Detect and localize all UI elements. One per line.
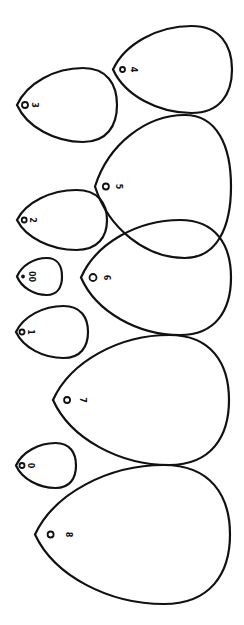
teardrop-shape-4: 4: [113, 26, 232, 113]
teardrop-shape-2: 2: [17, 190, 107, 250]
hanging-hole-icon: [22, 102, 28, 108]
teardrop-templates-diagram: 43520061708: [0, 0, 244, 625]
size-label: 0: [26, 463, 35, 469]
hanging-hole-icon: [90, 274, 97, 281]
size-label: 8: [64, 532, 73, 538]
teardrop-shape-5: 5: [95, 115, 231, 258]
size-label: 4: [129, 67, 138, 73]
hanging-hole-icon: [48, 532, 54, 538]
teardrop-shape-00: 00: [17, 258, 62, 295]
hanging-hole-icon: [20, 463, 25, 468]
size-label: 7: [78, 397, 87, 403]
hanging-hole-icon: [22, 218, 27, 223]
teardrop-shape-0: 0: [16, 443, 76, 488]
hanging-hole-icon: [20, 330, 25, 335]
hanging-hole-icon: [22, 276, 24, 278]
teardrop-shape-1: 1: [16, 306, 88, 358]
size-label: 2: [28, 217, 37, 223]
teardrop-shape-3: 3: [17, 68, 117, 142]
size-label: 5: [114, 184, 123, 190]
size-label: 00: [27, 271, 36, 283]
hanging-hole-icon: [64, 397, 70, 403]
size-label: 6: [102, 275, 111, 281]
size-label: 1: [26, 329, 35, 335]
hanging-hole-icon: [103, 184, 109, 190]
size-label: 3: [30, 102, 39, 108]
hanging-hole-icon: [120, 67, 125, 72]
